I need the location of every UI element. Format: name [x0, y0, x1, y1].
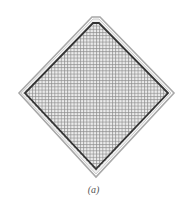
diamond-figure: (a)	[0, 0, 187, 214]
diamond-mesh-diagram	[0, 0, 187, 214]
mesh-fill	[23, 22, 169, 171]
figure-caption: (a)	[0, 184, 187, 195]
